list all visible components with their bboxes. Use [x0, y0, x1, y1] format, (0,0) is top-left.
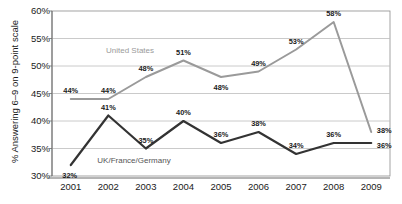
x-axis-tick-label: 2003 [135, 181, 156, 192]
x-axis-tick-label: 2002 [98, 181, 119, 192]
x-axis-tick-label: 2006 [248, 181, 269, 192]
data-label: 32% [62, 171, 77, 180]
data-label: 48% [214, 83, 229, 92]
data-label: 40% [176, 108, 191, 117]
data-label: 34% [289, 141, 304, 150]
data-label: 41% [101, 102, 116, 111]
data-label: 51% [176, 47, 191, 56]
data-label: 35% [138, 135, 153, 144]
x-axis-tick-label: 2008 [323, 181, 344, 192]
series-annotation-united-states: United States [106, 46, 154, 55]
data-label: 49% [251, 58, 266, 67]
data-label: 44% [63, 86, 78, 95]
x-axis-tick-label: 2007 [286, 181, 307, 192]
data-label: 38% [251, 119, 266, 128]
data-label: 38% [377, 126, 392, 135]
data-label: 44% [101, 86, 116, 95]
x-axis-tick-label: 2005 [210, 181, 231, 192]
data-label: 36% [326, 130, 341, 139]
x-axis-tick-label: 2009 [361, 181, 382, 192]
data-label: 36% [377, 141, 392, 150]
plot-area [0, 0, 402, 204]
data-label: 36% [214, 130, 229, 139]
data-label: 53% [289, 36, 304, 45]
x-axis-tick-label: 2001 [60, 181, 81, 192]
data-label: 48% [138, 64, 153, 73]
line-chart: % Answering 6–9 on 9-point scale 30%35%4… [0, 0, 402, 204]
series-annotation-uk-france-germany: UK/France/Germany [97, 156, 170, 165]
x-axis-tick-label: 2004 [173, 181, 194, 192]
data-label: 58% [326, 9, 341, 18]
